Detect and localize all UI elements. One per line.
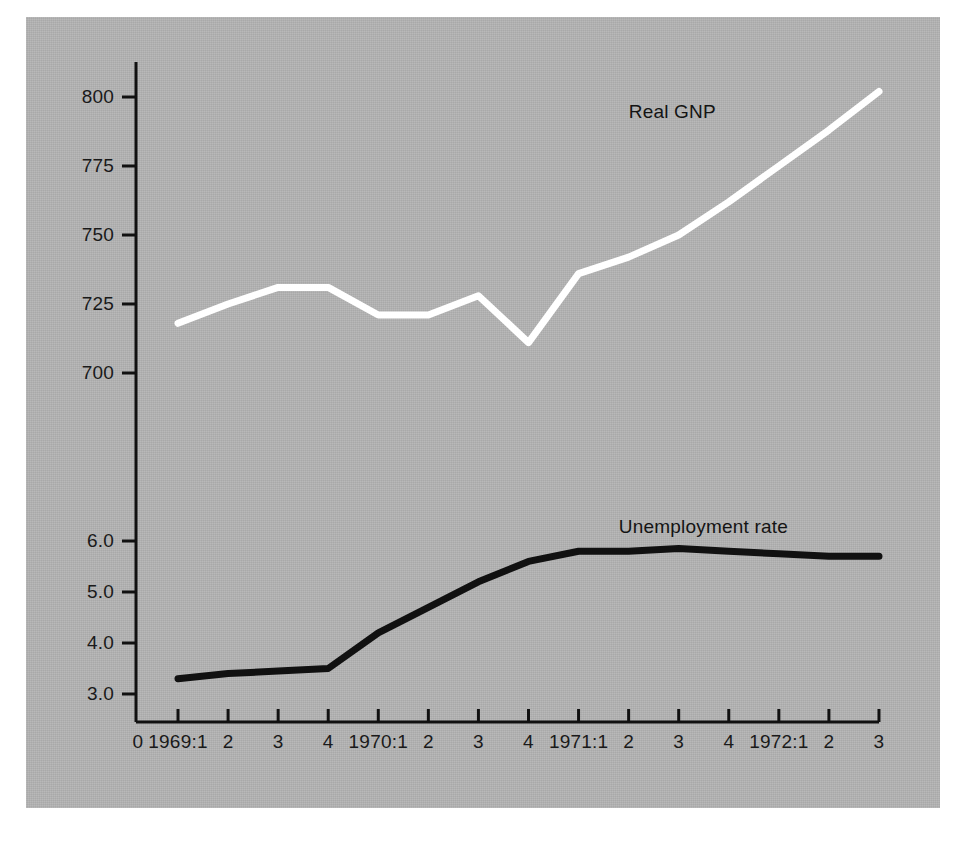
x-tick-label-2: 2 (223, 731, 234, 753)
x-axis-ticks (178, 709, 879, 722)
x-tick-label-3: 3 (673, 731, 684, 753)
x-tick-label-3: 3 (473, 731, 484, 753)
chart-figure: 8007757507257006.05.04.03.0 1969:1234197… (0, 0, 966, 849)
chart-plot-area (26, 17, 940, 808)
y-tick-label-gnp-750: 750 (26, 224, 114, 246)
y-tick-label-unemp-3.0: 3.0 (26, 683, 114, 705)
x-tick-label-4: 4 (323, 731, 334, 753)
y-tick-label-gnp-800: 800 (26, 86, 114, 108)
x-tick-label-1969-1: 1969:1 (148, 731, 207, 753)
y-tick-label-gnp-725: 725 (26, 293, 114, 315)
y-tick-label-gnp-700: 700 (26, 362, 114, 384)
series-line-real-gnp (178, 92, 879, 343)
x-tick-label-1972-1: 1972:1 (749, 731, 808, 753)
y-tick-label-unemp-6.0: 6.0 (26, 530, 114, 552)
x-tick-label-3: 3 (273, 731, 284, 753)
x-tick-label-1970-1: 1970:1 (349, 731, 408, 753)
series-label-real-gnp: Real GNP (629, 101, 716, 123)
y-tick-label-gnp-775: 775 (26, 155, 114, 177)
x-tick-label-4: 4 (523, 731, 534, 753)
y-axis-ticks (122, 97, 136, 694)
series-label-unemployment-rate: Unemployment rate (619, 516, 788, 538)
x-tick-label-3: 3 (874, 731, 885, 753)
y-tick-label-unemp-4.0: 4.0 (26, 632, 114, 654)
x-tick-label-4: 4 (723, 731, 734, 753)
chart-panel: 8007757507257006.05.04.03.0 1969:1234197… (26, 17, 940, 808)
x-tick-label-2: 2 (623, 731, 634, 753)
x-tick-label-2: 2 (423, 731, 434, 753)
x-axis-origin-label: 0 (133, 731, 144, 753)
x-tick-label-1971-1: 1971:1 (549, 731, 608, 753)
x-tick-label-2: 2 (824, 731, 835, 753)
series-line-unemployment-rate (178, 549, 879, 679)
y-tick-label-unemp-5.0: 5.0 (26, 581, 114, 603)
